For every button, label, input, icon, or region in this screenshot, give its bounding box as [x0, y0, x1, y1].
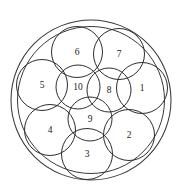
- inner-boundary-circle: [18, 27, 165, 174]
- outer-boundary-circle: [11, 20, 171, 180]
- figure-canvas: 12345678910: [0, 0, 183, 195]
- circle-label-6: 6: [75, 47, 80, 57]
- circle-label-4: 4: [48, 125, 53, 135]
- circle-packing-diagram: 12345678910: [0, 0, 183, 195]
- circle-label-1: 1: [140, 83, 145, 93]
- circle-label-3: 3: [85, 149, 90, 159]
- circle-label-2: 2: [127, 130, 132, 140]
- circle-label-10: 10: [73, 82, 83, 92]
- circle-label-5: 5: [40, 80, 45, 90]
- circle-label-8: 8: [107, 85, 112, 95]
- circle-label-7: 7: [117, 49, 122, 59]
- circle-label-9: 9: [88, 114, 93, 124]
